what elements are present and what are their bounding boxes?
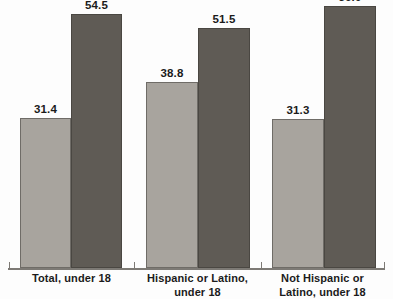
bar-chart: 31.4 54.5 38.8 51.5 31.3 56.0 Total, und… [0, 0, 393, 299]
bar-group0-dark [71, 14, 122, 268]
axis-tick-1 [134, 262, 135, 270]
category-label-1-line2: under 18 [134, 286, 261, 299]
axis-tick-left [9, 262, 10, 270]
bar-value-label-5: 56.0 [324, 0, 376, 3]
bar-value-label-2: 38.8 [146, 67, 198, 79]
category-label-0: Total, under 18 [9, 272, 134, 286]
plot-area: 31.4 54.5 38.8 51.5 31.3 56.0 [0, 0, 393, 268]
x-axis-category-labels: Total, under 18 Hispanic or Latino, unde… [0, 272, 393, 299]
bar-group2-dark [324, 6, 376, 268]
axis-tick-right [384, 262, 385, 270]
category-label-1: Hispanic or Latino, under 18 [134, 272, 261, 299]
bar-group0-light [20, 118, 71, 268]
bar-value-label-3: 51.5 [198, 13, 250, 25]
bar-group2-light [272, 119, 324, 268]
category-label-2: Not Hispanic or Latino, under 18 [261, 272, 384, 299]
category-label-1-line1: Hispanic or Latino, [147, 272, 248, 284]
bar-value-label-0: 31.4 [20, 103, 71, 115]
x-axis-line [8, 268, 385, 270]
axis-tick-2 [261, 262, 262, 270]
bar-group1-dark [198, 28, 250, 268]
category-label-2-line2: Latino, under 18 [261, 286, 384, 299]
bar-value-label-4: 31.3 [272, 104, 324, 116]
bar-value-label-1: 54.5 [71, 0, 122, 11]
category-label-0-line1: Total, under 18 [32, 272, 111, 284]
category-label-2-line1: Not Hispanic or [281, 272, 364, 284]
bar-group1-light [146, 82, 198, 268]
